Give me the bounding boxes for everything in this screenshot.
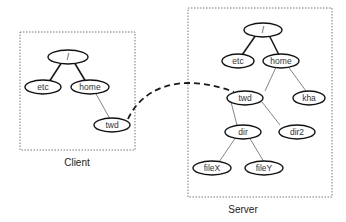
client-node-etc-label: etc (37, 82, 49, 92)
client-caption: Client (64, 157, 90, 168)
server-node-kha-label: kha (302, 93, 316, 103)
server-node-twd: twd (227, 91, 263, 105)
client-node-root: / (48, 50, 88, 64)
client-node-twd: twd (94, 118, 130, 132)
server-node-fileY: fileY (245, 161, 283, 175)
server-node-dir2: dir2 (279, 125, 315, 139)
server-node-etc: etc (222, 54, 254, 68)
server-node-dir-label: dir (238, 127, 248, 137)
server-edge-home-twd (265, 65, 277, 91)
server-node-dir2-label: dir2 (290, 127, 304, 137)
server-edge-twd-dir (231, 102, 237, 125)
server-edge-twd-dir2 (262, 102, 280, 125)
client-edge-root-etc (49, 62, 62, 82)
server-edge-root-home (269, 35, 279, 55)
server-node-home: home (263, 54, 299, 68)
server-caption: Server (228, 204, 258, 215)
mount-link-curve (128, 83, 234, 119)
server-edge-root-etc (242, 35, 256, 55)
nfs-mount-diagram: / etc home twd / etc home twd kha dir di… (0, 0, 346, 222)
client-edge-home-twd (95, 92, 110, 119)
server-node-fileY-label: fileY (256, 163, 273, 173)
server-node-home-label: home (270, 56, 292, 66)
server-node-twd-label: twd (238, 93, 252, 103)
server-node-root: / (244, 23, 282, 37)
server-node-fileX-label: fileX (204, 163, 221, 173)
server-node-dir: dir (225, 125, 261, 139)
server-edge-dir-fileY (249, 137, 264, 162)
server-node-fileX: fileX (193, 161, 231, 175)
client-node-twd-label: twd (105, 120, 119, 130)
server-node-kha: kha (293, 91, 325, 105)
server-node-etc-label: etc (232, 56, 244, 66)
client-node-home-label: home (79, 82, 101, 92)
client-node-etc: etc (25, 80, 61, 94)
server-edge-dir-fileX (219, 137, 236, 162)
client-edge-root-home (74, 62, 86, 82)
server-edge-home-kha (287, 65, 306, 91)
client-node-home: home (71, 80, 109, 94)
